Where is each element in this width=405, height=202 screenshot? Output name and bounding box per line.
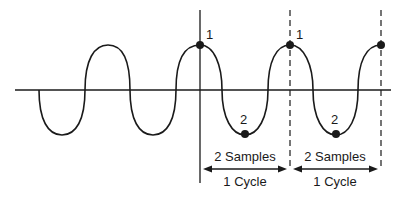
sample-point xyxy=(196,41,204,49)
cycle-label: 1 Cycle xyxy=(313,174,356,189)
sample-label: 2 xyxy=(331,112,338,127)
samples-label: 2 Samples xyxy=(304,149,366,164)
sampling-diagram: 1 2 1 2 2 Samples 2 Samples 1 Cycle 1 Cy… xyxy=(0,0,405,202)
diagram-canvas: 1 2 1 2 2 Samples 2 Samples 1 Cycle 1 Cy… xyxy=(0,0,405,202)
sample-point xyxy=(377,41,385,49)
cycle-arrow-2 xyxy=(293,166,378,173)
sample-label: 2 xyxy=(240,112,247,127)
sample-label: 1 xyxy=(206,27,213,42)
sample-point xyxy=(241,130,249,138)
cycle-arrow-1 xyxy=(203,166,287,173)
sample-point xyxy=(286,41,294,49)
samples-label: 2 Samples xyxy=(214,149,276,164)
sample-label: 1 xyxy=(296,27,303,42)
cycle-label: 1 Cycle xyxy=(223,174,266,189)
sample-point xyxy=(332,130,340,138)
